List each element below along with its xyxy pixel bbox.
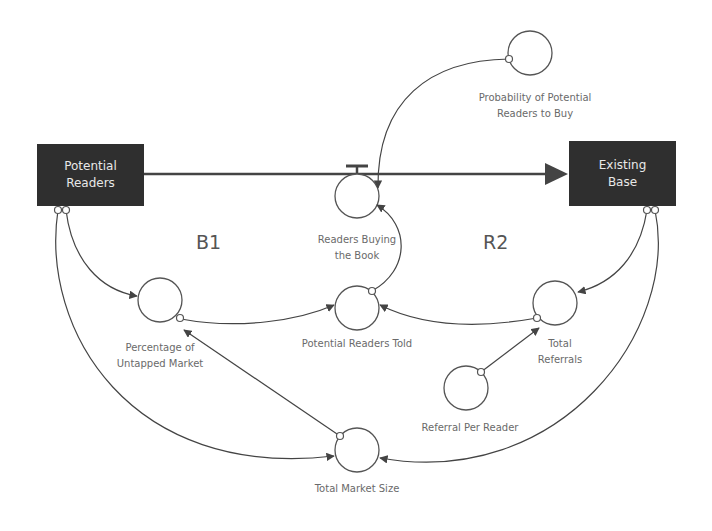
flow-rate-circle[interactable] <box>335 174 379 218</box>
label-potential-told: Potential Readers Told <box>282 336 432 352</box>
link-percentage-to-told[interactable] <box>181 305 334 324</box>
label-total-market-size: Total Market Size <box>282 481 432 497</box>
label-probability: Probability of Potential Readers to Buy <box>460 90 610 122</box>
percentage-untapped-circle[interactable] <box>138 278 182 322</box>
flow-arrowhead-icon <box>545 163 568 185</box>
stock-label: Existing Base <box>599 157 647 191</box>
stock-existing-base[interactable]: Existing Base <box>569 141 676 206</box>
stock-label: Potential Readers <box>64 158 117 192</box>
label-referral-per-reader: Referral Per Reader <box>395 420 545 436</box>
diagram-canvas <box>0 0 712 531</box>
link-readers-to-market[interactable] <box>56 210 334 459</box>
label-flow: Readers Buying the Book <box>297 232 417 264</box>
loop-label-r2: R2 <box>483 231 508 253</box>
probability-circle[interactable] <box>508 31 552 75</box>
label-percentage-untapped: Percentage of Untapped Market <box>85 340 235 372</box>
label-total-referrals: Total Referrals <box>525 336 595 368</box>
stock-potential-readers[interactable]: Potential Readers <box>37 144 144 206</box>
link-readers-to-percentage[interactable] <box>66 210 137 296</box>
loop-label-b1: B1 <box>196 231 221 253</box>
link-probability-to-flow[interactable] <box>378 59 509 188</box>
link-referrals-to-told[interactable] <box>380 305 537 324</box>
link-base-to-referrals[interactable] <box>578 210 647 292</box>
